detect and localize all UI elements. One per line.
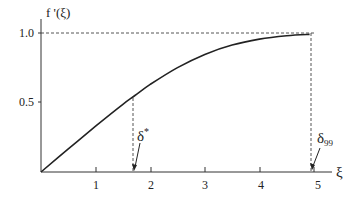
delta-99-arrow <box>313 148 320 166</box>
velocity-profile-curve <box>41 34 310 172</box>
x-axis-label: ξ <box>336 164 343 180</box>
y-tick-label-1.0: 1.0 <box>19 26 34 40</box>
delta-star-label: δ* <box>137 126 149 144</box>
x-tick-label-2: 2 <box>148 178 154 192</box>
delta-star-arrow <box>135 143 140 167</box>
x-tick-label-1: 1 <box>93 178 99 192</box>
x-tick-label-4: 4 <box>258 178 264 192</box>
x-tick-label-5: 5 <box>315 178 321 192</box>
blasius-velocity-chart: 0.5 1.0 1 2 3 4 5 f '(ξ) ξ δ* δ99 <box>0 0 359 200</box>
y-tick-label-0.5: 0.5 <box>19 95 34 109</box>
x-tick-label-3: 3 <box>202 178 208 192</box>
delta-99-label: δ99 <box>317 130 334 148</box>
y-axis-label: f '(ξ) <box>46 5 70 20</box>
